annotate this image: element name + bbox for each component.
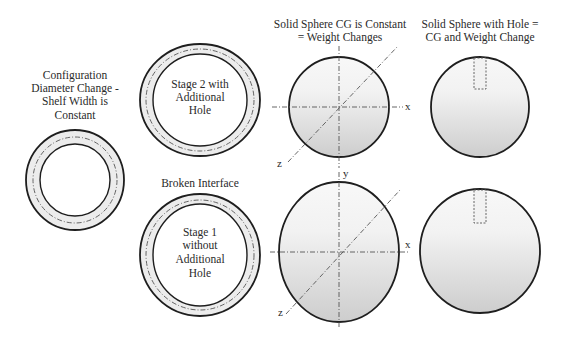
- solid-sphere-title-line-2: = Weight Changes: [298, 31, 383, 44]
- solid-sphere-small: x z: [272, 46, 411, 169]
- drilled-hole: [474, 58, 486, 89]
- config-title: Configuration Diameter Change - Shelf Wi…: [31, 69, 119, 121]
- stage1-label-line-1: Stage 1: [183, 226, 217, 239]
- solid-sphere-large: x z: [270, 172, 411, 328]
- solid-sphere-title-line-1: Solid Sphere CG is Constant: [274, 18, 407, 31]
- stage2-ring: Stage 2 with Additional Hole: [140, 44, 260, 156]
- x-axis-label: x: [405, 238, 411, 250]
- stage1-label-line-2: without: [182, 239, 218, 251]
- stage2-label-line-2: Additional: [175, 91, 224, 103]
- stage1-label-line-4: Hole: [189, 267, 211, 279]
- x-axis-label: x: [405, 100, 411, 112]
- config-title-line-3: Shelf Width is: [42, 95, 108, 107]
- solid-sphere-title: Solid Sphere CG is Constant = Weight Cha…: [274, 18, 407, 44]
- z-axis-label: z: [278, 306, 283, 318]
- diagram-canvas: Configuration Diameter Change - Shelf Wi…: [0, 0, 564, 338]
- stage2-label-line-1: Stage 2 with: [171, 78, 229, 91]
- y-axis-label: y: [343, 167, 349, 179]
- config-title-line-2: Diameter Change -: [31, 82, 119, 95]
- hole-sphere-large: [420, 189, 540, 313]
- config-ring: [26, 130, 124, 230]
- hole-sphere-title-line-2: CG and Weight Change: [425, 31, 534, 44]
- stage1-ring: Stage 1 without Additional Hole: [140, 194, 260, 316]
- z-axis-label: z: [277, 157, 282, 169]
- stage2-label-line-3: Hole: [189, 104, 211, 116]
- hole-sphere-title: Solid Sphere with Hole = CG and Weight C…: [421, 18, 538, 44]
- hole-sphere-small: [431, 57, 529, 157]
- drilled-hole: [474, 190, 486, 223]
- config-title-line-1: Configuration: [43, 69, 108, 82]
- stage1-label-line-3: Additional: [175, 253, 224, 265]
- broken-interface-label: Broken Interface: [161, 177, 239, 189]
- config-title-line-4: Constant: [55, 109, 97, 121]
- hole-sphere-title-line-1: Solid Sphere with Hole =: [421, 18, 538, 31]
